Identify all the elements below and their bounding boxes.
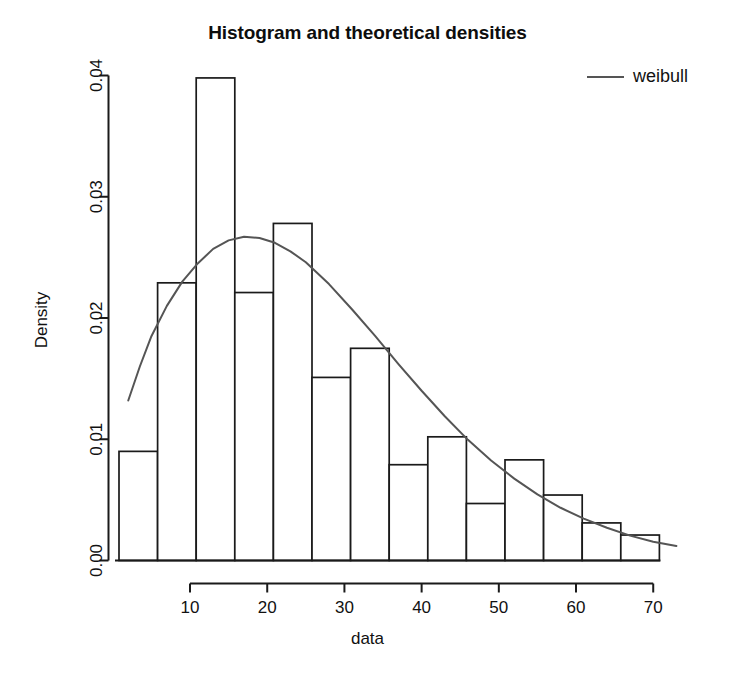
x-tick-label: 10 — [160, 598, 220, 618]
histogram-bar — [466, 504, 505, 561]
histogram-bar — [582, 523, 621, 561]
plot-canvas — [0, 0, 735, 680]
histogram-bar — [428, 437, 467, 561]
y-tick-label: 0.01 — [87, 409, 107, 469]
x-tick-label: 30 — [314, 598, 374, 618]
x-tick-label: 70 — [623, 598, 683, 618]
histogram-bar — [312, 377, 351, 560]
y-tick-label: 0.00 — [87, 531, 107, 591]
histogram-bar — [119, 451, 158, 560]
histogram-bar — [158, 283, 197, 561]
histogram-bar — [196, 78, 235, 561]
histogram-bar — [235, 293, 274, 561]
histogram-bar — [351, 348, 390, 560]
histogram-bars — [119, 78, 659, 561]
x-tick-label: 60 — [546, 598, 606, 618]
x-tick-label: 40 — [392, 598, 452, 618]
x-tick-label: 20 — [237, 598, 297, 618]
x-tick-label: 50 — [469, 598, 529, 618]
histogram-bar — [273, 223, 312, 560]
y-tick-label: 0.02 — [87, 288, 107, 348]
histogram-bar — [389, 465, 428, 561]
y-tick-label: 0.04 — [87, 46, 107, 106]
chart-container: Histogram and theoretical densities weib… — [0, 0, 735, 680]
y-tick-label: 0.03 — [87, 167, 107, 227]
histogram-bar — [544, 495, 583, 560]
